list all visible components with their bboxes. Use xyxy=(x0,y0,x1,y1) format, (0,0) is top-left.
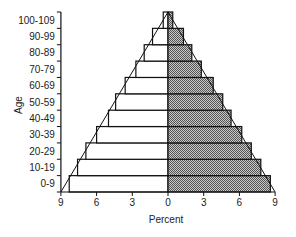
x-tick-label: 0 xyxy=(165,197,171,208)
x-tick-label: 6 xyxy=(237,197,243,208)
bar-right-10-19 xyxy=(168,159,261,175)
bar-left-100-109 xyxy=(163,12,168,28)
y-tick-label: 0-9 xyxy=(40,178,55,189)
x-tick-label: 3 xyxy=(201,197,207,208)
x-tick-label: 9 xyxy=(272,197,278,208)
y-axis-title: Age xyxy=(13,96,24,114)
y-tick-label: 50-59 xyxy=(29,97,55,108)
bar-left-40-49 xyxy=(109,110,169,126)
bar-right-80-89 xyxy=(168,45,192,61)
y-tick-label: 40-49 xyxy=(29,113,55,124)
x-tick-label: 9 xyxy=(58,197,64,208)
bar-right-70-79 xyxy=(168,61,201,77)
y-tick-label: 90-99 xyxy=(29,31,55,42)
x-tick-label: 6 xyxy=(94,197,100,208)
bar-left-10-19 xyxy=(78,159,168,175)
bar-right-60-69 xyxy=(168,77,213,93)
right-bars xyxy=(168,12,270,192)
y-tick-label: 80-89 xyxy=(29,47,55,58)
bar-right-50-59 xyxy=(168,94,223,110)
bar-left-30-39 xyxy=(97,127,168,143)
bar-right-20-29 xyxy=(168,143,251,159)
y-tick-label: 30-39 xyxy=(29,129,55,140)
y-tick-label: 10-19 xyxy=(29,162,55,173)
bar-left-0-9 xyxy=(69,176,168,192)
bar-left-80-89 xyxy=(144,45,168,61)
bar-right-40-49 xyxy=(168,110,231,126)
y-tick-label: 20-29 xyxy=(29,146,55,157)
population-pyramid-chart: 0-910-1920-2930-3940-4950-5960-6970-7980… xyxy=(0,0,296,237)
bar-left-70-79 xyxy=(136,61,168,77)
bar-right-0-9 xyxy=(168,176,270,192)
bar-left-90-99 xyxy=(153,28,168,44)
bar-left-50-59 xyxy=(116,94,168,110)
x-axis-title: Percent xyxy=(149,214,184,225)
bar-left-20-29 xyxy=(86,143,168,159)
bar-right-90-99 xyxy=(168,28,183,44)
bar-right-30-39 xyxy=(168,127,242,143)
bar-right-100-109 xyxy=(168,12,173,28)
y-tick-label: 100-109 xyxy=(18,15,55,26)
bar-left-60-69 xyxy=(125,77,168,93)
y-tick-label: 60-69 xyxy=(29,80,55,91)
y-tick-label: 70-79 xyxy=(29,64,55,75)
x-tick-labels: 9630369 xyxy=(58,197,278,208)
x-tick-label: 3 xyxy=(130,197,136,208)
left-bars xyxy=(69,12,168,192)
